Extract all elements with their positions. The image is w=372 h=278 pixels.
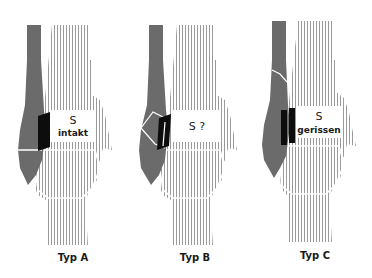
panel-typ-c: S gerissen Typ C (262, 21, 356, 261)
syndesmosis-block-left (281, 110, 287, 145)
caption: Typ C (300, 250, 330, 261)
box-subtitle: gerissen (297, 125, 340, 135)
box-title: S (70, 114, 77, 127)
panel-typ-a: S intakt Typ A (18, 25, 112, 263)
caption: Typ A (58, 252, 89, 263)
fibula (139, 25, 168, 185)
talus (280, 146, 344, 194)
fibula (262, 21, 290, 178)
ankle-fracture-diagram: S intakt Typ A S ? Typ B S gerissen Typ … (0, 0, 372, 278)
caption: Typ B (180, 252, 210, 263)
box-title: S (316, 110, 323, 123)
box-subtitle: intakt (58, 128, 89, 138)
syndesmosis-block-right (289, 108, 295, 143)
panel-typ-b: S ? Typ B (139, 25, 237, 263)
box-title: S ? (189, 120, 205, 133)
talus (35, 150, 100, 198)
talus (160, 150, 225, 198)
syndesmosis-block (38, 112, 50, 151)
